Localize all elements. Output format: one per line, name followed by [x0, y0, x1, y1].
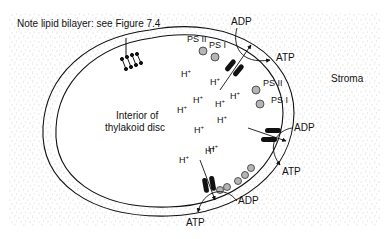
atp-label: ATP [282, 167, 301, 177]
proton-label: H+ [181, 68, 191, 79]
adp-label: ADP [231, 17, 252, 27]
proton-label: H+ [208, 143, 218, 154]
proton-label: H+ [210, 76, 220, 87]
proton-label: H+ [215, 98, 225, 109]
interior-label-line2: thylakoid disc [105, 123, 165, 133]
atp-label: ATP [276, 53, 295, 63]
photosystem-label: PS II [187, 35, 207, 44]
stroma-label: Stroma [331, 74, 363, 84]
atp-label: ATP [186, 218, 205, 228]
proton-label: H+ [194, 124, 204, 135]
adp-label: ADP [238, 196, 259, 206]
photosystem-label: PS II [263, 79, 283, 88]
photosystem-label: PS I [209, 41, 226, 50]
interior-label-line1: Interior of [116, 111, 158, 121]
proton-label: H+ [177, 104, 187, 115]
proton-label: H+ [193, 94, 203, 105]
photosystem-label: PS I [271, 96, 288, 105]
proton-label: H+ [217, 114, 227, 125]
adp-label: ADP [294, 123, 315, 133]
proton-label: H+ [179, 154, 189, 165]
proton-label: H+ [230, 90, 240, 101]
lipid-bilayer-note: Note lipid bilayer: see Figure 7.4 [17, 19, 160, 29]
